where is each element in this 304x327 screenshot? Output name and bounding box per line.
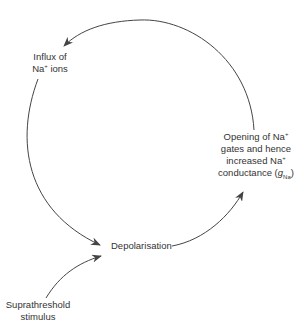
opening-line4: conductance (gNa) [208,167,304,179]
opening-l1-sup: + [285,131,289,137]
opening-line1: Opening of Na+ [208,131,304,143]
influx-na: Na [32,63,44,74]
stimulus-line1: Suprathreshold [2,299,74,311]
node-opening: Opening of Na+ gates and hence increased… [208,131,304,179]
opening-line2: gates and hence [208,143,304,155]
opening-l3-text: increased Na [226,155,282,166]
arrow-stimulus-to-depolarisation [46,256,101,298]
depolarisation-label: Depolarisation [111,240,172,251]
arrow-influx-to-depolarisation [27,79,100,245]
opening-line3: increased Na+ [208,155,304,167]
opening-l1-text: Opening of Na [224,131,285,142]
opening-l4-end: ) [291,167,294,178]
influx-ions: ions [48,63,68,74]
node-stimulus: Suprathreshold stimulus [2,299,74,323]
arrow-opening-to-influx [64,20,254,130]
opening-l3-sup: + [282,155,286,161]
stimulus-line2: stimulus [2,311,74,323]
opening-l4-sub: Na [283,174,291,180]
influx-line2: Na+ ions [20,63,80,75]
arrow-depolarisation-to-opening [172,192,243,246]
node-depolarisation: Depolarisation [111,240,172,252]
node-influx: Influx of Na+ ions [20,51,80,75]
opening-l4-text: conductance ( [218,167,278,178]
influx-line1: Influx of [20,51,80,63]
